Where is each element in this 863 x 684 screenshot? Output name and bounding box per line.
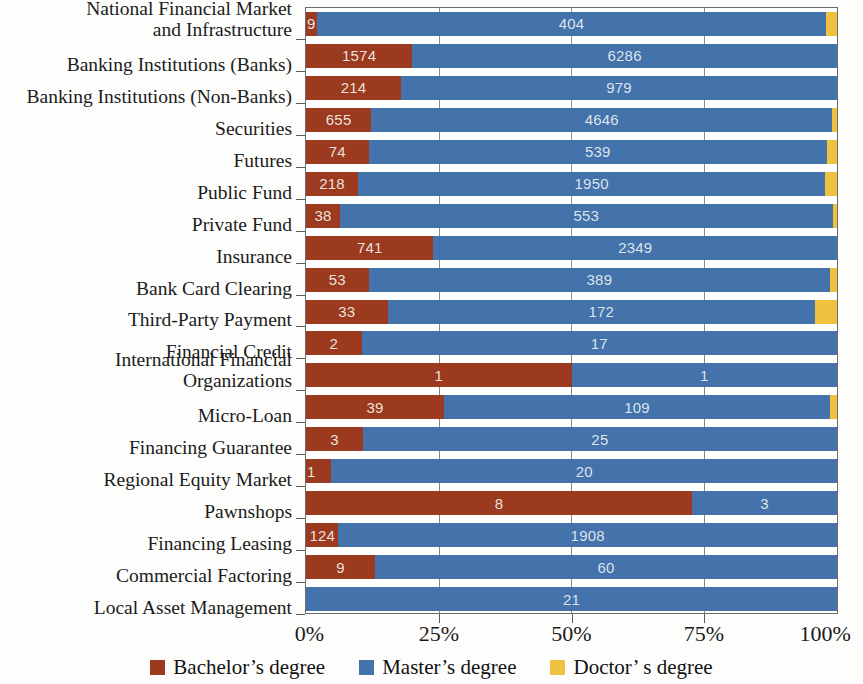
bar-segment-doctor	[833, 204, 837, 228]
bar-value-label: 1	[700, 368, 709, 383]
bar-segment-bachelor: 741	[306, 236, 433, 260]
bar-value-label: 2	[330, 336, 339, 351]
bar-segment-bachelor: 1	[306, 459, 331, 483]
bar-value-label: 3	[330, 432, 339, 447]
bar-segment-master: 4646	[371, 108, 832, 132]
bar-segment-doctor	[830, 395, 837, 419]
y-axis-tick	[296, 263, 305, 264]
y-axis-label: Private Fund	[192, 214, 292, 235]
bar-segment-bachelor: 38	[306, 204, 340, 228]
bar-value-label: 553	[574, 208, 600, 223]
bar-rows: 9404157462862149796554646745392181950385…	[306, 8, 837, 613]
bar-segment-bachelor: 2	[306, 331, 362, 355]
bar-value-label: 74	[329, 144, 346, 159]
y-axis-tick	[296, 614, 305, 615]
legend-swatch-icon	[150, 660, 165, 675]
y-axis-tick	[296, 103, 305, 104]
y-axis-label: Local Asset Management	[94, 597, 292, 618]
bar-segment-bachelor: 218	[306, 172, 358, 196]
x-axis-tick-label: 100%	[800, 621, 851, 647]
bar-segment-master: 20	[331, 459, 837, 483]
y-axis-label: Commercial Factoring	[116, 565, 292, 586]
bar-value-label: 1950	[575, 176, 609, 191]
bar-segment-master: 21	[306, 587, 837, 611]
y-axis-label: Micro-Loan	[198, 405, 292, 426]
bar-segment-bachelor: 3	[306, 427, 363, 451]
bar-segment-bachelor: 9	[306, 555, 375, 579]
chart-legend: Bachelor’s degreeMaster’s degreeDoctor’ …	[0, 655, 863, 680]
bar-value-label: 38	[314, 208, 331, 223]
bar-value-label: 1574	[342, 48, 376, 63]
bar-row: 9404	[306, 12, 837, 36]
y-axis-tick	[296, 295, 305, 296]
bar-value-label: 389	[587, 272, 613, 287]
y-axis-tick	[296, 71, 305, 72]
legend-item[interactable]: Bachelor’s degree	[150, 655, 325, 680]
bar-segment-master: 1950	[358, 172, 825, 196]
bar-value-label: 53	[329, 272, 346, 287]
y-axis-label: Banking Institutions (Non-Banks)	[27, 86, 292, 107]
bar-segment-doctor	[826, 12, 837, 36]
bar-value-label: 17	[591, 336, 608, 351]
bar-segment-doctor	[832, 108, 837, 132]
legend-swatch-icon	[550, 660, 565, 675]
bar-row: 83	[306, 491, 837, 515]
y-axis-tick	[296, 326, 305, 327]
legend-swatch-icon	[359, 660, 374, 675]
bar-segment-bachelor: 8	[306, 491, 692, 515]
bar-row: 120	[306, 459, 837, 483]
bar-value-label: 1	[434, 368, 443, 383]
bar-segment-master: 17	[362, 331, 837, 355]
bar-segment-master: 979	[401, 76, 837, 100]
legend-item[interactable]: Doctor’ s degree	[550, 655, 712, 680]
bar-segment-master: 6286	[412, 44, 837, 68]
bar-value-label: 9	[336, 560, 345, 575]
x-axis-tick-label: 0%	[295, 621, 324, 647]
bar-segment-doctor	[815, 300, 837, 324]
y-axis-tick	[296, 390, 305, 391]
legend-label: Bachelor’s degree	[173, 655, 325, 680]
y-axis-tick	[296, 358, 305, 359]
y-axis-label: Bank Card Clearing	[136, 278, 292, 299]
bar-segment-master: 60	[375, 555, 837, 579]
bar-row: 325	[306, 427, 837, 451]
y-axis-label: Financing Leasing	[147, 533, 292, 554]
bar-value-label: 1	[307, 464, 316, 479]
y-axis-tick	[296, 454, 305, 455]
y-axis-label: Securities	[215, 118, 292, 139]
bar-segment-bachelor: 1574	[306, 44, 412, 68]
bar-segment-bachelor: 33	[306, 300, 388, 324]
y-axis-label: Futures	[234, 150, 293, 171]
bar-value-label: 124	[309, 528, 335, 543]
bar-segment-master: 404	[317, 12, 826, 36]
legend-label: Master’s degree	[382, 655, 516, 680]
bar-value-label: 20	[576, 464, 593, 479]
bar-value-label: 979	[606, 80, 632, 95]
bar-row: 1241908	[306, 523, 837, 547]
y-axis-tick	[296, 486, 305, 487]
bar-value-label: 60	[597, 560, 614, 575]
x-axis-tick-label: 50%	[551, 621, 591, 647]
y-axis-label: International Financial Organizations	[115, 349, 292, 391]
bar-segment-master: 539	[369, 140, 827, 164]
bar-segment-master: 2349	[433, 236, 837, 260]
bar-segment-master: 553	[340, 204, 833, 228]
y-axis-label: Insurance	[216, 246, 292, 267]
bar-value-label: 172	[588, 304, 614, 319]
bar-row: 214979	[306, 76, 837, 100]
bar-value-label: 8	[495, 496, 504, 511]
bar-segment-doctor	[827, 140, 837, 164]
bar-segment-master: 25	[363, 427, 837, 451]
bar-segment-bachelor: 214	[306, 76, 401, 100]
bar-segment-bachelor: 53	[306, 268, 369, 292]
x-axis-tick-label: 25%	[419, 621, 459, 647]
y-axis-tick	[296, 135, 305, 136]
bar-value-label: 3	[760, 496, 769, 511]
stacked-bar-chart: National Financial Market and Infrastruc…	[0, 0, 863, 684]
bar-value-label: 6286	[608, 48, 642, 63]
x-axis-labels: 0%25%50%75%100%	[0, 618, 863, 648]
bar-segment-bachelor: 9	[306, 12, 317, 36]
legend-item[interactable]: Master’s degree	[359, 655, 516, 680]
bar-value-label: 9	[307, 16, 316, 31]
y-axis-label: Financing Guarantee	[129, 437, 292, 458]
